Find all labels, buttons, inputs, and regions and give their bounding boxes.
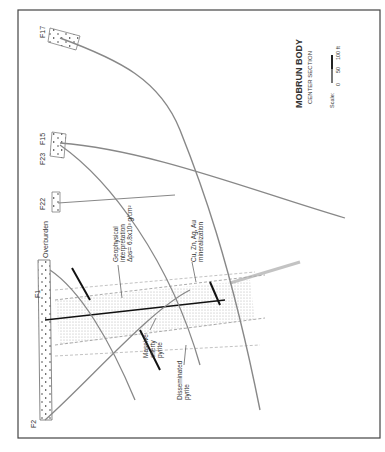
svg-text:pyrite: pyrite [183,384,191,400]
diagram-title: MOBRUN BODY [294,39,304,108]
label-overburden: Overburden [42,221,49,258]
svg-text:Massive: Massive [142,334,149,358]
overburden-strip [38,260,52,420]
scale-label: Scale: [329,92,335,108]
svg-text:mineralization: mineralization [197,222,204,262]
label-disseminated-pyrite: Disseminated pyrite [176,360,191,400]
label-f15: F15 [39,133,46,145]
overburden-f15 [50,132,66,158]
svg-text:pyrite: pyrite [156,342,164,358]
svg-text:100 ft: 100 ft [335,46,341,60]
label-mineralization: Cu, Zn, Ag, Au mineralization [190,220,204,262]
drillhole-f15 [60,143,345,218]
svg-text:Disseminated: Disseminated [176,360,183,400]
svg-text:0: 0 [335,83,341,86]
overburden-f22 [52,192,60,212]
svg-text:50: 50 [335,67,341,73]
label-f22: F22 [39,198,46,210]
label-f17: F17 [39,26,46,38]
label-massive-pyrite: Massive cherty pyrite [142,334,164,358]
label-geophysical: Geophysical interpretation Δρs= 6.8x10³ … [112,205,134,262]
drillhole-f22 [58,195,175,203]
svg-text:Δρs= 6.8x10³ g/cm²: Δρs= 6.8x10³ g/cm² [126,205,134,262]
diagram-subtitle: CENTER SECTION [307,51,313,104]
label-f23: F23 [39,153,46,165]
scale-bar [331,55,333,83]
geologic-section-diagram: F17 F15 F23 F22 F1 F2 Overburden Geophys… [0,0,385,452]
label-f1: F1 [34,290,41,298]
label-f2: F2 [30,420,37,428]
